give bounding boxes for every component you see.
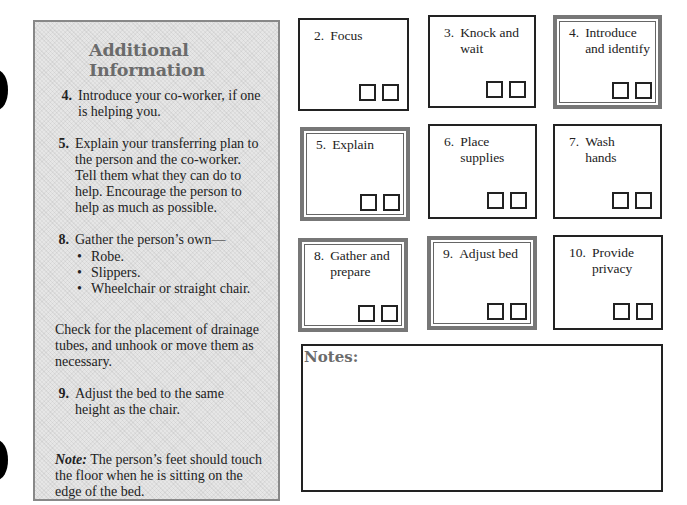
card-label: Gather and prepare	[330, 248, 406, 280]
drainage-tubes-text: Check for the placement of drainage tube…	[55, 322, 262, 370]
checkbox-1[interactable]	[612, 192, 629, 209]
card-number: 8.	[314, 248, 324, 280]
list-item: Wheelchair or straight chair.	[75, 281, 262, 297]
step-card-place-supplies: 6.Place supplies	[428, 124, 537, 219]
card-number: 4.	[569, 25, 579, 57]
checkbox-2[interactable]	[635, 192, 652, 209]
info-step-9: 9. Adjust the bed to the same height as …	[55, 386, 262, 418]
step-card-knock-and-wait: 3.Knock and wait	[428, 15, 536, 108]
card-label: Provide privacy	[592, 245, 651, 277]
step-card-wash-hands: 7.Wash hands	[553, 124, 662, 219]
card-label: Place supplies	[460, 134, 514, 166]
card-number: 6.	[444, 134, 454, 166]
card-label: Introduce and identify	[585, 25, 655, 57]
checkbox-2[interactable]	[381, 305, 398, 322]
checkbox-2[interactable]	[383, 194, 400, 211]
card-label: Adjust bed	[459, 246, 518, 262]
card-label: Explain	[332, 137, 374, 153]
step-card-introduce-and-identify: 4.Introduce and identify	[553, 15, 662, 109]
checkbox-1[interactable]	[612, 82, 629, 99]
checkbox-1[interactable]	[613, 303, 630, 320]
card-label: Focus	[330, 28, 362, 44]
step-number: 8.	[55, 232, 69, 297]
step-text: Adjust the bed to the same height as the…	[75, 386, 262, 418]
notes-input[interactable]	[307, 370, 657, 486]
card-number: 10.	[569, 245, 586, 277]
info-step-5: 5. Explain your transferring plan to the…	[55, 136, 262, 216]
card-label: Knock and wait	[460, 25, 524, 57]
step-card-focus: 2.Focus	[298, 18, 409, 111]
checkbox-1[interactable]	[487, 192, 504, 209]
info-step-4: 4. Introduce your co-worker, if one is h…	[55, 88, 262, 120]
card-number: 2.	[314, 28, 324, 44]
additional-information-panel: Additional Information 4. Introduce your…	[33, 20, 280, 501]
list-item: Slippers.	[75, 265, 262, 281]
step-text: Introduce your co-worker, if one is help…	[78, 88, 262, 120]
step-card-adjust-bed: 9.Adjust bed	[427, 236, 537, 330]
list-item: Robe.	[75, 249, 262, 265]
note-label: Note:	[55, 452, 87, 467]
step-card-explain: 5.Explain	[300, 127, 410, 221]
card-number: 7.	[569, 134, 579, 166]
panel-title: Additional Information	[89, 40, 262, 80]
checkbox-1[interactable]	[486, 81, 503, 98]
binder-hole-top	[0, 70, 8, 110]
checkbox-2[interactable]	[510, 192, 527, 209]
note-paragraph: Note: The person’s feet should touch the…	[55, 452, 262, 500]
notes-label: Notes:	[304, 348, 358, 366]
card-label: Wash hands	[585, 134, 629, 166]
step-number: 5.	[55, 136, 69, 216]
step-number: 4.	[58, 88, 72, 120]
info-step-8: 8. Gather the person’s own— Robe. Slippe…	[55, 232, 262, 297]
checkbox-1[interactable]	[359, 84, 376, 101]
checkbox-1[interactable]	[487, 303, 504, 320]
supplies-list: Robe. Slippers. Wheelchair or straight c…	[75, 249, 262, 297]
step-text: Gather the person’s own—	[75, 232, 225, 247]
binder-hole-bottom	[0, 440, 8, 480]
note-text: The person’s feet should touch the floor…	[55, 452, 262, 499]
step-number: 9.	[55, 386, 69, 418]
checkbox-2[interactable]	[382, 84, 399, 101]
step-text: Explain your transferring plan to the pe…	[75, 136, 262, 216]
card-number: 3.	[444, 25, 454, 57]
step-card-gather-and-prepare: 8.Gather and prepare	[298, 238, 408, 332]
checkbox-2[interactable]	[636, 303, 653, 320]
card-number: 9.	[443, 246, 453, 262]
step-card-provide-privacy: 10.Provide privacy	[553, 235, 663, 330]
notes-box: Notes:	[301, 344, 663, 492]
checkbox-1[interactable]	[358, 305, 375, 322]
checkbox-2[interactable]	[635, 82, 652, 99]
card-number: 5.	[316, 137, 326, 153]
checkbox-2[interactable]	[509, 81, 526, 98]
checkbox-1[interactable]	[360, 194, 377, 211]
checkbox-2[interactable]	[510, 303, 527, 320]
